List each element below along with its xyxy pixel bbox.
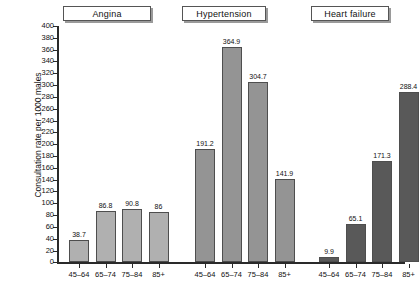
x-tick-label: 75–84 bbox=[248, 270, 269, 279]
y-tick-label: 0 bbox=[50, 257, 54, 266]
x-tick-mark bbox=[382, 264, 383, 268]
y-tick-label: 320 bbox=[41, 68, 54, 77]
x-tick-label: 75–84 bbox=[122, 270, 143, 279]
bar-value-label: 86.8 bbox=[99, 202, 113, 210]
y-tick-label: 360 bbox=[41, 45, 54, 54]
y-tick-label: 300 bbox=[41, 80, 54, 89]
bar-value-label: 38.7 bbox=[72, 231, 86, 239]
y-tick-label: 260 bbox=[41, 104, 54, 113]
y-tick-label: 140 bbox=[41, 175, 54, 184]
y-tick-label: 220 bbox=[41, 127, 54, 136]
x-tick-label: 45–64 bbox=[69, 270, 90, 279]
x-tick-label: 65–74 bbox=[345, 270, 366, 279]
x-tick-mark bbox=[159, 264, 160, 268]
y-tick-label: 380 bbox=[41, 33, 54, 42]
x-tick-mark bbox=[258, 264, 259, 268]
x-tick-label: 75–84 bbox=[372, 270, 393, 279]
bar-value-label: 304.7 bbox=[249, 73, 267, 81]
y-axis-line bbox=[57, 26, 59, 264]
x-tick-mark bbox=[132, 264, 133, 268]
bar-value-label: 90.8 bbox=[125, 200, 139, 208]
x-tick-mark bbox=[79, 264, 80, 268]
bar: 171.3 bbox=[372, 161, 392, 262]
x-tick-mark bbox=[232, 264, 233, 268]
bar-value-label: 141.9 bbox=[276, 170, 294, 178]
x-tick-label: 65–74 bbox=[221, 270, 242, 279]
bar: 9.9 bbox=[319, 257, 339, 263]
y-tick-label: 20 bbox=[46, 246, 54, 255]
x-tick-label: 85+ bbox=[152, 270, 165, 279]
bar-value-label: 288.4 bbox=[400, 83, 418, 91]
bar: 191.2 bbox=[195, 149, 215, 262]
bar: 65.1 bbox=[346, 224, 366, 262]
x-tick-mark bbox=[329, 264, 330, 268]
y-tick-label: 400 bbox=[41, 21, 54, 30]
x-tick-mark bbox=[409, 264, 410, 268]
bar: 90.8 bbox=[122, 209, 142, 263]
bar: 38.7 bbox=[69, 240, 89, 263]
plot-area: 0204060801001201401601802002202402602803… bbox=[57, 26, 405, 264]
y-tick-label: 280 bbox=[41, 92, 54, 101]
bar: 86 bbox=[149, 212, 169, 263]
group-title-angina: Angina bbox=[63, 6, 151, 21]
bar-value-label: 65.1 bbox=[349, 215, 363, 223]
y-tick-label: 340 bbox=[41, 56, 54, 65]
bar-value-label: 191.2 bbox=[196, 140, 214, 148]
bar-value-label: 171.3 bbox=[373, 152, 391, 160]
y-tick-label: 40 bbox=[46, 234, 54, 243]
x-tick-mark bbox=[356, 264, 357, 268]
group-title-heart-failure: Heart failure bbox=[311, 6, 389, 21]
group-title-hypertension-label: Hypertension bbox=[196, 9, 251, 19]
bar: 141.9 bbox=[275, 179, 295, 263]
group-title-hypertension: Hypertension bbox=[182, 6, 266, 21]
bar: 86.8 bbox=[96, 211, 116, 262]
x-tick-mark bbox=[285, 264, 286, 268]
bar: 364.9 bbox=[222, 47, 242, 263]
y-tick-label: 100 bbox=[41, 198, 54, 207]
y-tick-label: 180 bbox=[41, 151, 54, 160]
y-tick-label: 80 bbox=[46, 210, 54, 219]
x-tick-label: 65–74 bbox=[95, 270, 116, 279]
bar-value-label: 364.9 bbox=[223, 38, 241, 46]
bar-value-label: 9.9 bbox=[324, 248, 334, 256]
y-tick-label: 120 bbox=[41, 186, 54, 195]
y-tick-label: 60 bbox=[46, 222, 54, 231]
x-tick-label: 85+ bbox=[278, 270, 291, 279]
x-tick-label: 45–64 bbox=[195, 270, 216, 279]
x-tick-mark bbox=[205, 264, 206, 268]
x-tick-label: 85+ bbox=[402, 270, 415, 279]
bar-value-label: 86 bbox=[155, 203, 163, 211]
x-tick-mark bbox=[106, 264, 107, 268]
x-tick-label: 45–64 bbox=[319, 270, 340, 279]
bar: 288.4 bbox=[399, 92, 419, 262]
y-tick-label: 240 bbox=[41, 116, 54, 125]
y-tick-label: 160 bbox=[41, 163, 54, 172]
y-tick-label: 200 bbox=[41, 139, 54, 148]
bar: 304.7 bbox=[248, 82, 268, 262]
group-title-heart-failure-label: Heart failure bbox=[324, 9, 376, 19]
group-title-angina-label: Angina bbox=[92, 9, 121, 19]
